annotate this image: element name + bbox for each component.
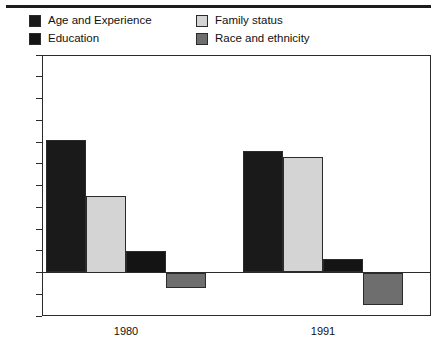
x-axis-label-1980: 1980 — [114, 325, 138, 338]
y-axis-label-slot: 1 — [0, 55, 42, 56]
legend-label-family-status: Family status — [215, 14, 283, 27]
bar-1991-age-and-experience — [243, 151, 283, 273]
y-axis-label-slot: .6 — [0, 142, 42, 143]
bar-1991-education — [323, 259, 363, 272]
legend-swatch-age-and-experience — [29, 15, 41, 27]
bar-1980-age-and-experience — [46, 140, 86, 273]
legend-item-age-and-experience: Age and Experience — [29, 13, 152, 28]
y-axis-label-slot: .5 — [0, 164, 42, 165]
y-axis-label-slot: .1 — [0, 251, 42, 252]
chart-legend: Age and Experience Education Family stat… — [29, 13, 359, 47]
legend-item-education: Education — [29, 31, 99, 46]
legend-label-age-and-experience: Age and Experience — [48, 14, 152, 27]
legend-item-family-status: Family status — [196, 13, 283, 28]
y-axis-label-slot: .3 — [0, 207, 42, 208]
y-axis-label-slot: −.2 — [0, 316, 42, 317]
y-axis-label-slot: .8 — [0, 99, 42, 100]
legend-swatch-family-status — [196, 15, 208, 27]
chart-figure: Age and Experience Education Family stat… — [0, 0, 437, 347]
y-axis-label-slot: 0 — [0, 273, 42, 274]
y-axis-label-slot: .4 — [0, 186, 42, 187]
legend-label-race-and-ethnicity: Race and ethnicity — [215, 32, 310, 45]
y-axis-label-slot: .9 — [0, 77, 42, 78]
y-axis-label-slot: .7 — [0, 120, 42, 121]
bar-1980-family-status — [86, 196, 126, 272]
legend-swatch-race-and-ethnicity — [196, 33, 208, 45]
x-axis-label-1991: 1991 — [311, 325, 335, 338]
bar-1991-race-and-ethnicity — [363, 273, 403, 306]
y-axis-label-slot: .2 — [0, 229, 42, 230]
legend-swatch-education — [29, 33, 41, 45]
header-rule — [6, 5, 431, 8]
legend-label-education: Education — [48, 32, 99, 45]
y-axis-label-slot: −.1 — [0, 294, 42, 295]
bar-1980-race-and-ethnicity — [166, 273, 206, 288]
legend-item-race-and-ethnicity: Race and ethnicity — [196, 31, 310, 46]
bar-1991-family-status — [283, 157, 323, 272]
bar-1980-education — [126, 251, 166, 273]
